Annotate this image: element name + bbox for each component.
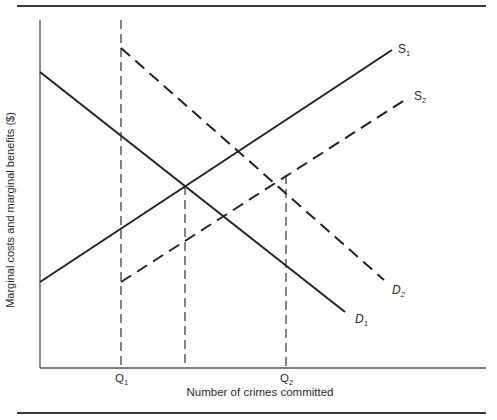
label-s1: S1 xyxy=(398,42,410,58)
label-d1: D1 xyxy=(355,312,368,328)
label-s2: S2 xyxy=(414,89,426,105)
x-tick-q2-text: Q xyxy=(280,372,289,384)
supply-curve-s2 xyxy=(121,98,408,282)
label-d2-sub: 2 xyxy=(401,290,405,299)
label-d2-text: D xyxy=(392,283,401,297)
label-s1-text: S xyxy=(398,42,406,56)
label-d2: D2 xyxy=(392,283,405,299)
label-d1-text: D xyxy=(355,312,364,326)
label-s2-sub: 2 xyxy=(422,96,426,105)
demand-curve-d1 xyxy=(40,72,345,312)
label-s1-sub: 1 xyxy=(406,49,410,58)
y-axis-label: Marginal costs and marginal benefits ($) xyxy=(4,60,18,360)
x-tick-q1: Q1 xyxy=(115,372,128,387)
supply-curve-s1 xyxy=(40,50,392,282)
bottom-rule xyxy=(17,412,486,414)
x-tick-q1-text: Q xyxy=(115,372,124,384)
label-s2-text: S xyxy=(414,89,422,103)
label-d1-sub: 1 xyxy=(364,319,368,328)
demand-curve-d2 xyxy=(121,48,384,280)
x-tick-q2: Q2 xyxy=(280,372,293,387)
chart-canvas xyxy=(0,0,497,420)
x-axis-label: Number of crimes committed xyxy=(180,386,340,398)
x-tick-q1-sub: 1 xyxy=(124,378,128,387)
